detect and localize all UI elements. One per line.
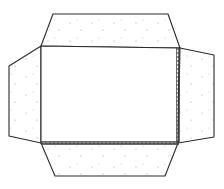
bottom-flap [41, 143, 178, 176]
envelope-diagram [0, 0, 224, 189]
right-flap [178, 48, 214, 143]
center-panel [41, 46, 179, 143]
diagram-canvas [0, 0, 224, 189]
left-flap [9, 46, 41, 143]
top-flap [41, 14, 180, 48]
